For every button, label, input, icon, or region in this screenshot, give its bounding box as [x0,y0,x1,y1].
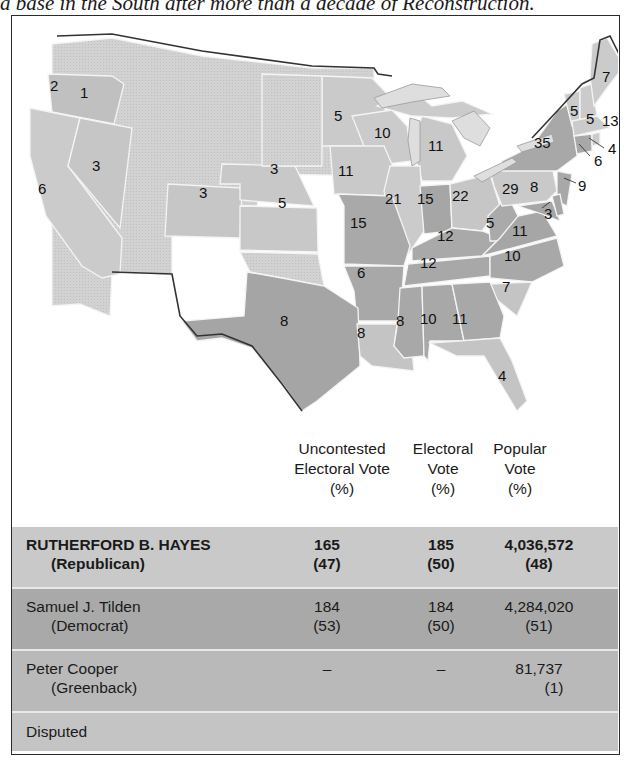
label-pa: 29 [502,180,519,197]
label-va: 11 [512,222,528,239]
electoral-vote: 185 (50) [420,535,462,573]
label-ca: 6 [38,180,46,197]
table-row-hayes: RUTHERFORD B. HAYES (Republican) 165 (47… [12,527,618,587]
label-ri: 4 [608,140,616,157]
label-nj: 9 [578,177,586,194]
electoral-vote: 184 (50) [420,597,462,635]
label-ma: 13 [602,112,618,129]
table-row-tilden: Samuel J. Tilden (Democrat) 184 (53) 184… [12,587,618,649]
label-ms: 8 [396,312,404,329]
table-row-cooper: Peter Cooper (Greenback) – – 81,737 (1) [12,649,618,711]
label-mo: 15 [350,214,367,231]
label-nc: 10 [504,247,521,264]
label-ky: 12 [437,227,454,244]
disputed-label: Disputed [26,722,87,741]
label-ks: 5 [278,194,286,211]
label-in: 15 [417,190,434,207]
table-header: Uncontested Electoral Vote (%) Electoral… [12,439,618,539]
label-co: 3 [199,184,207,201]
label-wi: 10 [374,124,391,141]
label-ny: 35 [534,134,551,151]
label-mi: 11 [428,137,444,154]
label-il: 21 [385,190,402,207]
candidate-name: Peter Cooper (Greenback) [26,659,137,697]
label-sc: 7 [502,278,510,295]
popular-vote: 4,036,572 (48) [494,535,584,573]
popular-vote: 4,284,020 (51) [494,597,584,635]
candidate-name: Samuel J. Tilden (Democrat) [26,597,141,635]
label-nh: 5 [586,110,594,127]
label-la: 8 [357,324,365,341]
uncontested-vote: 184 (53) [302,597,352,635]
state-fl [430,338,527,411]
label-al: 10 [420,310,437,327]
label-fl: 4 [498,367,506,384]
state-ct [574,134,592,154]
header-popular: Popular Vote (%) [480,439,560,499]
state-ks [240,206,318,252]
label-tx: 8 [280,312,288,329]
label-oh: 22 [452,187,469,204]
candidate-name: RUTHERFORD B. HAYES (Republican) [26,535,211,573]
us-electoral-map: 2 1 3 6 3 3 5 5 10 11 11 21 15 22 15 12 … [12,16,618,426]
label-me: 7 [602,68,610,85]
label-nv: 3 [92,157,100,174]
caption-text: a base in the South after more than a de… [0,0,631,11]
label-vt: 5 [570,102,578,119]
label-tn: 12 [420,254,437,271]
popular-vote: 81,737 (1) [494,659,584,697]
label-mn: 5 [334,107,342,124]
label-md: 8 [530,178,538,195]
header-uncontested: Uncontested Electoral Vote (%) [280,439,404,499]
label-or-west: 2 [50,77,58,94]
label-de: 3 [544,205,552,222]
label-ia: 11 [338,162,354,179]
state-tx [182,272,360,411]
results-table: RUTHERFORD B. HAYES (Republican) 165 (47… [12,527,618,751]
label-or: 1 [80,84,88,101]
header-electoral: Electoral Vote (%) [407,439,479,499]
electoral-vote: – [420,659,462,678]
table-row-disputed: Disputed [12,711,618,751]
uncontested-vote: – [302,659,352,678]
election-figure: 2 1 3 6 3 3 5 5 10 11 11 21 15 22 15 12 … [11,15,620,755]
label-ga: 11 [452,310,468,327]
uncontested-vote: 165 (47) [302,535,352,573]
territory-dakota [262,74,322,166]
label-ne: 3 [270,160,278,177]
state-ri [592,132,600,146]
label-ct: 6 [594,152,602,169]
label-ar: 6 [357,264,365,281]
label-wv: 5 [486,214,494,231]
